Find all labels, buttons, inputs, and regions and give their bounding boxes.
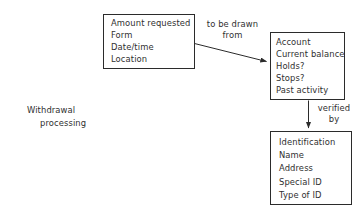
account-line-1: Account [276,36,345,48]
identity-box-text: Identification Name Address Special ID T… [279,136,335,202]
account-line-3: Holds? [276,60,345,72]
account-line-5: Past activity [276,84,345,96]
identity-line-4: Special ID [279,176,335,189]
edge-label-line-2: by [313,114,355,125]
request-line-1: Amount requested [111,17,190,29]
identity-line-2: Name [279,149,335,162]
diagram-caption-line-1: Withdrawal [27,104,86,117]
account-line-2: Current balance [276,48,345,60]
request-box-text: Amount requested Form Date/time Location [111,17,190,65]
edge-label-line-2: from [201,30,264,41]
account-box-text: Account Current balance Holds? Stops? Pa… [276,36,345,96]
request-line-3: Date/time [111,41,190,53]
edge-label-verified-by: verified by [313,103,355,126]
edge-label-to-be-drawn-from: to be drawn from [201,19,264,42]
edge-label-line-1: to be drawn [201,19,264,30]
diagram-canvas: Amount requested Form Date/time Location… [0,0,364,212]
request-line-4: Location [111,53,190,65]
account-line-4: Stops? [276,72,345,84]
identity-line-1: Identification [279,136,335,149]
identity-line-5: Type of ID [279,189,335,202]
edge-label-line-1: verified [313,103,355,114]
identity-line-3: Address [279,162,335,175]
edge-request-to-account-line [195,44,267,62]
diagram-caption: Withdrawal processing [27,104,86,129]
request-line-2: Form [111,29,190,41]
diagram-caption-line-2: processing [27,117,86,130]
